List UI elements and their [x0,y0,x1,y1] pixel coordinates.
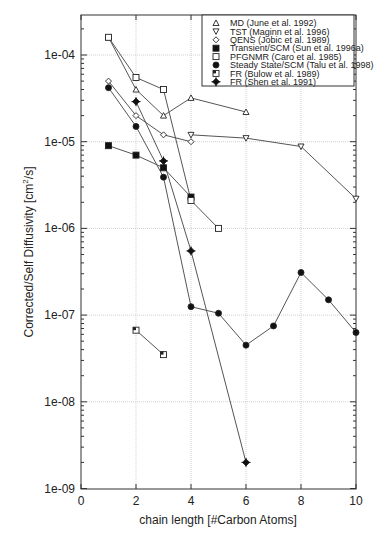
y-tick-label: 1e-08 [44,395,75,409]
x-tick-label: 2 [133,494,140,508]
legend: MD (June et al. 1992)TST (Maginn et al. … [202,15,374,87]
x-tick-label: 6 [243,494,250,508]
series-3 [109,81,192,142]
diffusivity-chart: 02468101e-041e-051e-061e-071e-081e-09 MD… [0,0,380,540]
y-tick-label: 1e-09 [44,482,75,496]
x-tick-label: 10 [349,494,363,508]
series-6 [109,88,357,346]
x-tick-label: 8 [298,494,305,508]
x-axis-label: chain length [#Carbon Atoms] [139,513,296,527]
x-tick-label: 4 [188,494,195,508]
y-tick-label: 1e-07 [44,308,75,322]
series-markers-6 [106,85,360,349]
legend-item: FR (Shen et al. 1991) [230,77,316,87]
y-tick-label: 1e-06 [44,221,75,235]
series-2 [191,135,356,199]
series-markers-3 [106,78,195,145]
series-4 [109,146,192,197]
axis-ticks: 02468101e-041e-051e-061e-071e-081e-09 [44,15,363,508]
series-7 [136,330,164,354]
y-tick-label: 1e-05 [44,135,75,149]
y-tick-label: 1e-04 [44,48,75,62]
x-tick-label: 0 [78,494,85,508]
y-axis-label: Corrected/Self Diffusivity [cm2/s] [21,167,36,338]
